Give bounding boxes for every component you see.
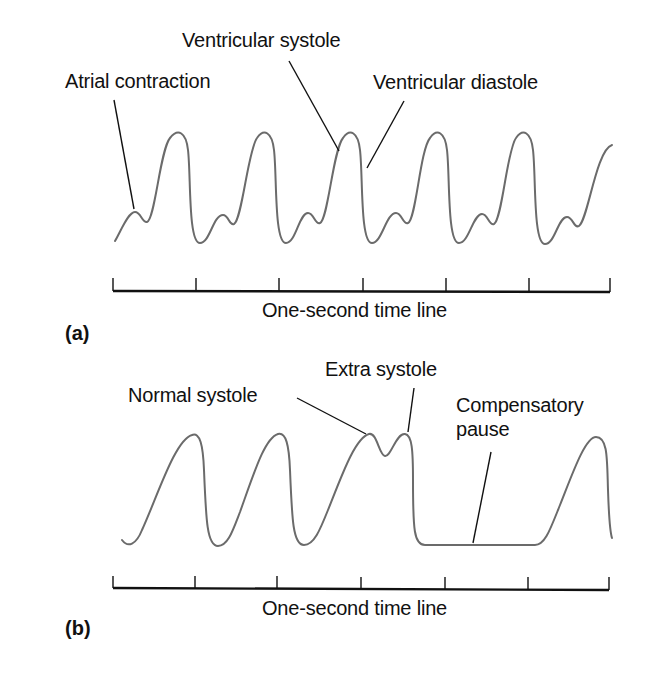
leader-atrial-contraction [114,100,134,209]
panel-b-tag: (b) [65,617,91,639]
label-compensatory-pause: Compensatory pause [456,393,626,441]
label-compensatory-pause-line2: pause [456,417,626,441]
label-atrial-contraction: Atrial contraction [65,70,210,92]
timeline-b [113,576,609,590]
leader-extra-systole [408,388,414,432]
waveform-a [115,133,612,244]
waveform-b [122,434,612,546]
leader-ventricular-systole [289,61,339,151]
panel-a-tag: (a) [65,322,89,344]
label-ventricular-systole: Ventricular systole [182,29,341,51]
label-extra-systole: Extra systole [325,358,437,380]
leader-normal-systole [297,398,366,434]
leader-compensatory-pause [473,452,491,543]
label-compensatory-pause-line1: Compensatory [456,393,626,417]
label-ventricular-diastole: Ventricular diastole [373,71,538,93]
label-normal-systole: Normal systole [128,384,257,406]
timeline-a-label: One-second time line [262,299,447,321]
timeline-b-label: One-second time line [262,597,447,619]
leader-ventricular-diastole [367,101,404,168]
timeline-a [113,278,610,292]
cardiac-pressure-figure: Ventricular systole Atrial contraction V… [0,0,654,699]
figure-graphics [0,0,654,699]
